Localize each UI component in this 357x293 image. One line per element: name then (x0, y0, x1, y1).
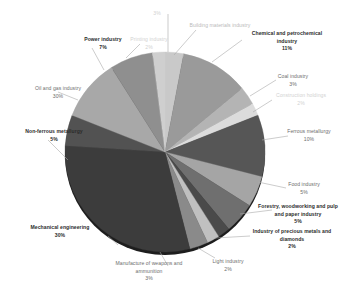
label-food-industry: Food industry 5% (272, 181, 336, 196)
label-printing-industry: Printing industry 2% (118, 36, 180, 51)
label-ferrous-metallurgy: Ferrous metallurgy 10% (272, 128, 346, 143)
label-chemical-and-petrochemical-industry: Chemical and petrochemical industry 11% (238, 30, 336, 53)
label-building-materials-industry: Building materials industry (178, 22, 262, 30)
label-forestry-woodworking-pulp-paper-industry: Forestry, woodworking and pulp and paper… (243, 203, 353, 226)
label-manufacture-of-weapons-and-ammunition: Manufacture of weapons and ammunition 3% (98, 260, 200, 283)
label-mechanical-engineering: Mechanical engineering 30% (14, 224, 106, 239)
label-industry-of-precious-metals-and-diamonds: Industry of precious metals and diamonds… (236, 228, 348, 251)
label-non-ferrous-metallurgy: Non-ferrous metallurgy 5% (8, 128, 100, 143)
pie-slice-group (65, 52, 265, 252)
label-oil-and-gas-industry: Oil and gas industry 30% (18, 85, 98, 100)
pie-chart: 3% Building materials industry Chemical … (0, 0, 357, 293)
leader-line (92, 48, 104, 70)
label-light-industry: Light industry 2% (197, 258, 259, 273)
label-construction-holdings: Construction holdings 2% (262, 92, 340, 107)
label-coal-industry: Coal industry 3% (258, 73, 328, 88)
leader-line (198, 248, 215, 258)
label-top-small: 3% (140, 10, 174, 18)
